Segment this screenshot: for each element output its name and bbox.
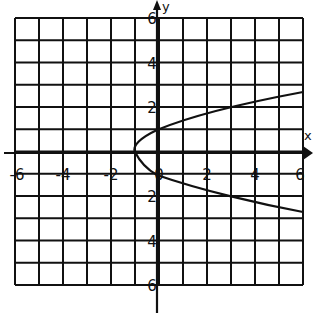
- y-axis-label: y: [162, 0, 170, 14]
- x-tick-label: -6: [10, 166, 25, 184]
- y-axis-arrow-icon: [153, 0, 161, 10]
- y-tick-label: 4: [147, 233, 157, 251]
- y-tick-label: 6: [147, 10, 157, 28]
- grid-lines: [15, 18, 303, 285]
- y-tick-label: 4: [147, 55, 157, 73]
- x-tick-label: 4: [250, 166, 260, 184]
- x-tick-label: -4: [56, 166, 71, 184]
- x-axis-label: x: [304, 128, 312, 143]
- y-tick-label: 6: [147, 277, 157, 295]
- graph: x y -6-4-20246642246: [0, 0, 313, 317]
- x-tick-label: 2: [202, 166, 212, 184]
- y-tick-label: 2: [147, 188, 157, 206]
- y-tick-label: 2: [147, 99, 157, 117]
- x-tick-label: 6: [295, 166, 305, 184]
- x-tick-label: -2: [104, 166, 119, 184]
- x-axis-arrow-icon: [303, 146, 313, 160]
